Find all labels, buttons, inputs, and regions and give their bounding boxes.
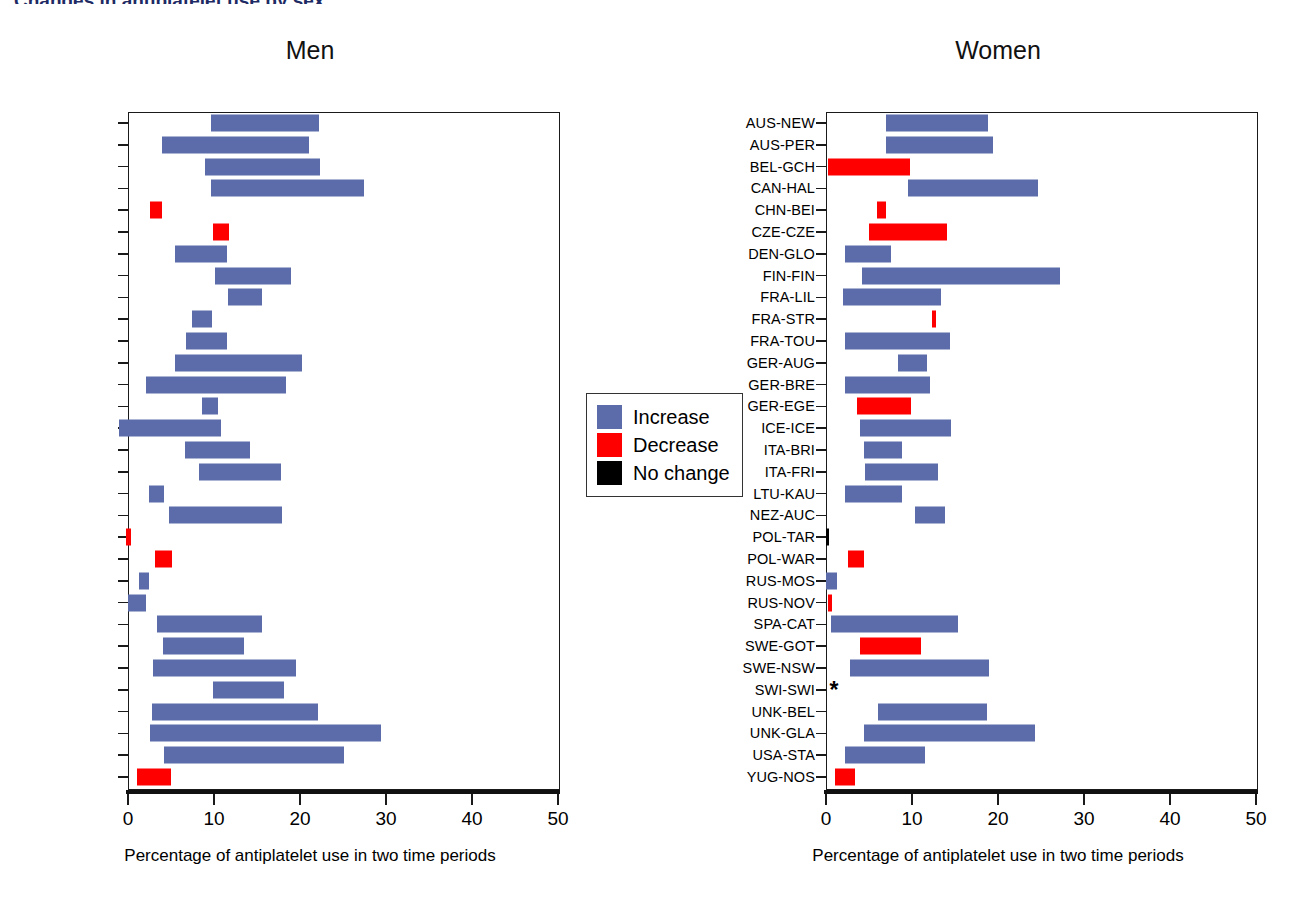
y-axis-label-chn-bei: CHN-BEI bbox=[755, 202, 815, 218]
y-axis-tick bbox=[816, 711, 826, 713]
y-axis-tick bbox=[118, 624, 128, 626]
legend-label-increase: Increase bbox=[633, 406, 710, 429]
bar-ltu-kau bbox=[845, 485, 902, 502]
x-axis-tick-20 bbox=[299, 794, 301, 805]
y-axis-label-fra-str: FRA-STR bbox=[751, 311, 815, 327]
y-axis-tick bbox=[816, 602, 826, 604]
bar-ita-bri bbox=[185, 442, 250, 459]
y-axis-tick bbox=[118, 144, 128, 146]
legend-swatch-no-change bbox=[597, 461, 622, 485]
x-axis-tick-label-0: 0 bbox=[123, 808, 134, 830]
panel-title-women: Women bbox=[698, 36, 1298, 65]
x-axis-tick-label-10: 10 bbox=[203, 808, 224, 830]
bar-ger-bre bbox=[845, 376, 930, 393]
y-axis-label-ltu-kau: LTU-KAU bbox=[753, 486, 815, 502]
bar-bel-gch bbox=[205, 158, 319, 175]
bar-cze-cze bbox=[213, 223, 229, 240]
bar-unk-gla bbox=[864, 725, 1035, 742]
bar-den-glo bbox=[845, 245, 891, 262]
y-axis-label-pol-tar: POL-TAR bbox=[753, 529, 815, 545]
bar-can-hal bbox=[211, 180, 365, 197]
bar-fra-str bbox=[192, 311, 213, 328]
bar-nez-auc bbox=[915, 507, 945, 524]
y-axis-tick bbox=[118, 209, 128, 211]
y-axis-tick bbox=[118, 689, 128, 691]
y-axis-label-aus-new: AUS-NEW bbox=[746, 115, 815, 131]
bar-ice-ice bbox=[860, 420, 951, 437]
y-axis-tick bbox=[118, 493, 128, 495]
y-axis-tick bbox=[816, 188, 826, 190]
y-axis-tick bbox=[816, 580, 826, 582]
y-axis-tick bbox=[118, 602, 128, 604]
y-axis-tick bbox=[118, 122, 128, 124]
y-axis-tick bbox=[118, 645, 128, 647]
y-axis-label-ita-fri: ITA-FRI bbox=[765, 464, 815, 480]
legend-label-no-change: No change bbox=[633, 462, 730, 485]
bar-rus-mos bbox=[139, 572, 148, 589]
bar-yug-nos bbox=[137, 769, 171, 786]
panel-men: Men AUS-NEWAUS-PERBEL-GCHCAN-HALCHN-BEIC… bbox=[0, 0, 620, 913]
bar-ger-aug bbox=[898, 354, 927, 371]
x-axis-tick-label-30: 30 bbox=[375, 808, 396, 830]
bar-cze-cze bbox=[869, 223, 947, 240]
y-axis-tick bbox=[816, 667, 826, 669]
y-axis-tick bbox=[816, 362, 826, 364]
bar-unk-gla bbox=[150, 725, 380, 742]
y-axis-tick bbox=[118, 733, 128, 735]
y-axis-tick bbox=[816, 776, 826, 778]
y-axis-tick bbox=[816, 449, 826, 451]
y-axis-label-usa-sta: USA-STA bbox=[753, 747, 815, 763]
y-axis-tick bbox=[118, 188, 128, 190]
y-axis-tick bbox=[816, 122, 826, 124]
y-axis-tick bbox=[816, 253, 826, 255]
bar-fra-tou bbox=[186, 332, 226, 349]
bar-aus-new bbox=[886, 114, 987, 131]
y-axis-tick bbox=[816, 754, 826, 756]
bar-ger-bre bbox=[146, 376, 286, 393]
y-axis-label-unk-bel: UNK-BEL bbox=[751, 704, 815, 720]
x-axis-tick-30 bbox=[385, 794, 387, 805]
y-axis-label-aus-per: AUS-PER bbox=[750, 137, 815, 153]
bar-aus-new bbox=[211, 114, 319, 131]
bar-spa-cat bbox=[157, 616, 262, 633]
legend-item-no-change: No change bbox=[597, 459, 730, 487]
y-axis-label-ger-bre: GER-BRE bbox=[748, 377, 815, 393]
x-axis-line bbox=[824, 790, 1258, 794]
x-axis-tick-label-50: 50 bbox=[547, 808, 568, 830]
y-axis-label-ger-aug: GER-AUG bbox=[747, 355, 815, 371]
bar-fra-lil bbox=[228, 289, 262, 306]
bar-rus-nov bbox=[128, 594, 146, 611]
x-axis-tick-0 bbox=[127, 794, 129, 805]
x-axis-tick-50 bbox=[1255, 794, 1257, 805]
x-axis-tick-40 bbox=[1169, 794, 1171, 805]
y-axis-label-fin-fin: FIN-FIN bbox=[763, 268, 815, 284]
y-axis-label-pol-war: POL-WAR bbox=[747, 551, 815, 567]
y-axis-tick bbox=[816, 471, 826, 473]
y-axis-label-yug-nos: YUG-NOS bbox=[747, 769, 815, 785]
y-axis-tick bbox=[816, 209, 826, 211]
bar-swe-nsw bbox=[153, 660, 296, 677]
y-axis-label-unk-gla: UNK-GLA bbox=[750, 725, 815, 741]
y-axis-label-ice-ice: ICE-ICE bbox=[761, 420, 815, 436]
y-axis-tick bbox=[816, 340, 826, 342]
bar-ltu-kau bbox=[149, 485, 164, 502]
x-axis-tick-0 bbox=[825, 794, 827, 805]
y-axis-label-bel-gch: BEL-GCH bbox=[750, 159, 815, 175]
bar-fin-fin bbox=[862, 267, 1060, 284]
y-axis-tick bbox=[118, 318, 128, 320]
bar-fin-fin bbox=[215, 267, 291, 284]
y-axis-tick bbox=[816, 231, 826, 233]
bar-unk-bel bbox=[152, 703, 318, 720]
bar-usa-sta bbox=[845, 747, 925, 764]
legend-swatch-decrease bbox=[597, 433, 622, 457]
y-axis-tick bbox=[816, 515, 826, 517]
panel-title-men: Men bbox=[0, 36, 620, 65]
y-axis-tick bbox=[816, 733, 826, 735]
y-axis-tick bbox=[816, 624, 826, 626]
y-axis-tick bbox=[118, 471, 128, 473]
bar-rus-nov bbox=[828, 594, 832, 611]
y-axis-tick bbox=[118, 406, 128, 408]
bar-swe-got bbox=[860, 638, 921, 655]
bar-pol-tar bbox=[826, 529, 829, 546]
y-axis-label-den-glo: DEN-GLO bbox=[748, 246, 815, 262]
